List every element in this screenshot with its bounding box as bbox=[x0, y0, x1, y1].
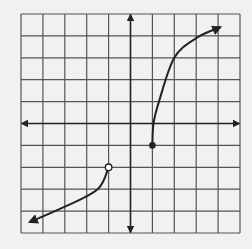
curve-right-piece bbox=[152, 27, 220, 145]
closed-circle-endpoint bbox=[149, 142, 156, 149]
curve-left-piece bbox=[30, 167, 109, 222]
open-circle-endpoint bbox=[105, 164, 112, 171]
curves bbox=[30, 27, 221, 222]
graph bbox=[0, 0, 252, 249]
axes bbox=[22, 15, 239, 232]
